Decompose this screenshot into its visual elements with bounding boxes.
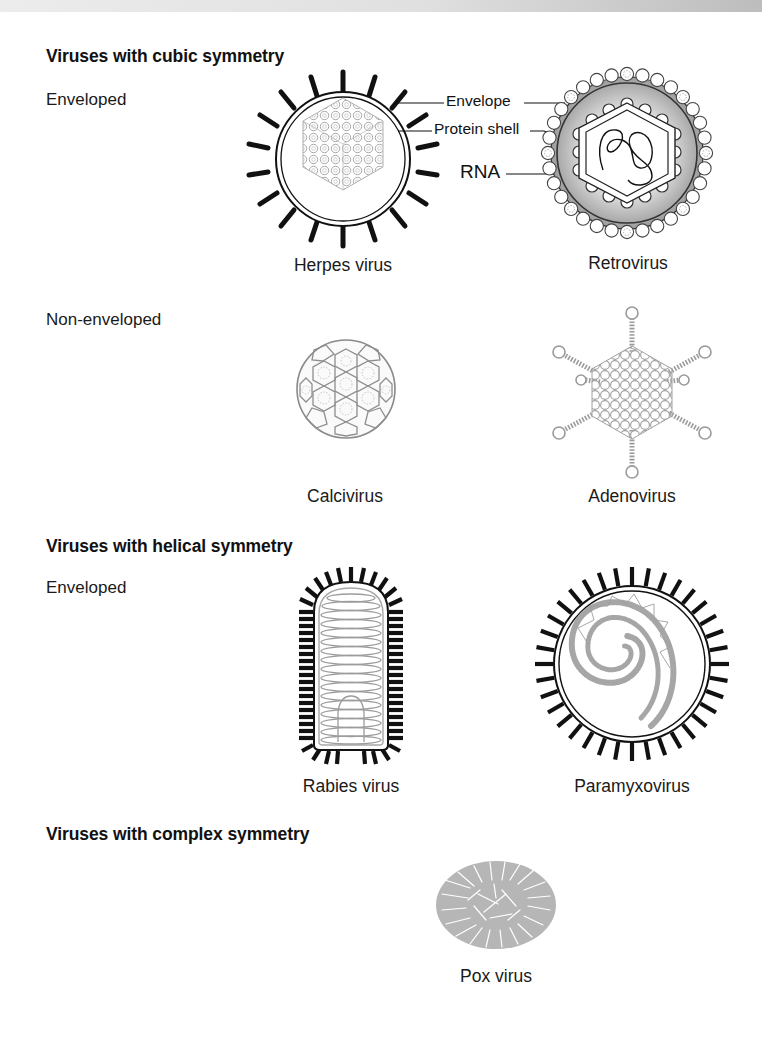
- callout-envelope: Envelope: [446, 92, 511, 110]
- caption-herpes-virus: Herpes virus: [243, 255, 443, 276]
- callout-rna: RNA: [460, 161, 500, 183]
- caption-calcivirus: Calcivirus: [245, 486, 445, 507]
- caption-pox-virus: Pox virus: [396, 966, 596, 987]
- group-label-non-enveloped: Non-enveloped: [46, 310, 161, 330]
- caption-adenovirus: Adenovirus: [532, 486, 732, 507]
- calcivirus-illustration: [297, 340, 395, 438]
- adenovirus-illustration: [553, 307, 711, 478]
- group-label-enveloped-helical: Enveloped: [46, 578, 126, 598]
- callout-protein-shell: Protein shell: [434, 120, 519, 138]
- paramyxovirus-illustration: [535, 567, 729, 761]
- retrovirus-illustration: [541, 67, 712, 238]
- section-heading-complex: Viruses with complex symmetry: [46, 824, 309, 845]
- group-label-enveloped-cubic: Enveloped: [46, 90, 126, 110]
- section-heading-helical: Viruses with helical symmetry: [46, 536, 293, 557]
- caption-rabies-virus: Rabies virus: [251, 776, 451, 797]
- caption-paramyxovirus: Paramyxovirus: [532, 776, 732, 797]
- pox-virus-illustration: [436, 861, 556, 949]
- top-gradient-bar: [0, 0, 762, 12]
- rabies-virus-illustration: [299, 567, 403, 764]
- section-heading-cubic: Viruses with cubic symmetry: [46, 46, 284, 67]
- herpes-virus-illustration: [249, 72, 437, 246]
- caption-retrovirus: Retrovirus: [528, 253, 728, 274]
